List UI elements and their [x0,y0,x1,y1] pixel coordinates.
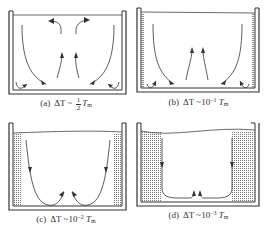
panel-b: (b)ΔT ~10−1 Tm [132,0,265,118]
caption-label: (d) [168,210,179,220]
caption-subscript: m [91,218,96,224]
panel-d: (d)ΔT ~10−3 Tm [132,118,265,237]
caption-a: (a)ΔT ~ 12Tm [0,97,132,112]
caption-subscript: m [224,214,229,220]
caption-d: (d)ΔT ~10−3 Tm [132,210,265,220]
caption-expression: ΔT ~10 [50,214,77,224]
caption-label: (b) [168,97,179,107]
caption-label: (c) [36,214,46,224]
fraction: 12 [76,97,82,112]
caption-expression: ΔT ~10 [183,210,210,220]
caption-expression: ΔT ~10 [183,97,210,107]
caption-subscript: m [224,101,229,107]
caption-b: (b)ΔT ~10−1 Tm [132,97,265,107]
caption-expression: ΔT ~ [54,98,75,108]
fraction-denominator: 2 [76,105,82,112]
caption-exponent: −2 [77,214,83,220]
caption-subscript: m [87,102,92,108]
caption-c: (c)ΔT ~10−2 Tm [0,214,132,224]
caption-exponent: −3 [210,210,216,216]
panel-a: (a)ΔT ~ 12Tm [0,0,132,118]
caption-label: (a) [40,98,50,108]
panel-c: (c)ΔT ~10−2 Tm [0,118,132,237]
caption-exponent: −1 [210,97,216,103]
